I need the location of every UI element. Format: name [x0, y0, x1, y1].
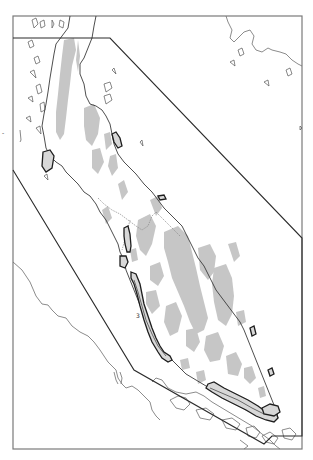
wetland-patch-west-island[interactable] — [120, 256, 128, 268]
gulf-coastline-north — [226, 16, 302, 66]
map-canvas: - — [0, 0, 313, 460]
wetland-patch-east-coast-small[interactable] — [158, 195, 166, 200]
area-label-3: 3 — [136, 312, 140, 319]
study-area-boundary[interactable] — [13, 38, 302, 444]
wetland-patch-east-coast-tip[interactable] — [268, 368, 274, 376]
wetland-patch-southern-tip[interactable] — [262, 404, 280, 416]
wetland-patch-east-coast-south[interactable] — [250, 326, 256, 336]
wetland-patch-north-island[interactable] — [42, 150, 54, 172]
map-figure: - — [0, 0, 313, 460]
edge-tick-mark: - — [2, 129, 4, 136]
wetland-patch-east-lagoon[interactable] — [112, 132, 122, 148]
highland-shading — [56, 38, 266, 398]
wetland-patch-west-strip-1[interactable] — [124, 226, 131, 252]
map-frame — [13, 16, 302, 449]
